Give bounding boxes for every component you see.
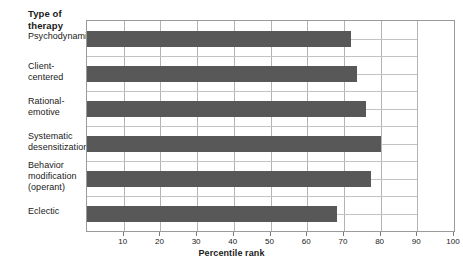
x-axis-tick-label: 80 — [375, 237, 384, 246]
bar — [87, 136, 381, 152]
x-axis-tick — [270, 232, 271, 236]
x-axis-title: Percentile rank — [0, 248, 463, 258]
bar — [87, 171, 371, 187]
x-axis-tick-label: 30 — [192, 237, 201, 246]
x-axis-tick — [416, 232, 417, 236]
category-label: Rational- emotive — [28, 96, 90, 118]
category-label: Behavior modification (operant) — [28, 160, 90, 193]
gridline-horizontal — [87, 161, 417, 162]
category-label: Client- centered — [28, 61, 90, 83]
gridline-vertical — [417, 21, 418, 231]
category-label: Psychodynamic — [28, 31, 90, 42]
gridline-horizontal — [87, 91, 417, 92]
bar — [87, 206, 337, 222]
x-axis-tick — [196, 232, 197, 236]
gridline-horizontal — [87, 126, 417, 127]
plot-area — [86, 20, 455, 232]
x-axis-tick-label: 40 — [228, 237, 237, 246]
x-axis-tick-label: 50 — [265, 237, 274, 246]
x-axis-tick-label: 10 — [118, 237, 127, 246]
x-axis-tick — [123, 232, 124, 236]
x-axis-tick — [380, 232, 381, 236]
plot-inner — [87, 21, 454, 231]
x-axis-tick — [343, 232, 344, 236]
x-axis-tick-label: 90 — [412, 237, 421, 246]
x-axis-tick — [306, 232, 307, 236]
x-axis-tick-label: 100 — [446, 237, 459, 246]
x-axis-tick — [233, 232, 234, 236]
bar — [87, 31, 351, 47]
x-axis-tick-label: 60 — [302, 237, 311, 246]
y-axis-title: Type of therapy — [28, 8, 63, 31]
x-axis-tick-label: 70 — [338, 237, 347, 246]
category-label: Systematic desensitization — [28, 131, 90, 153]
percentile-rank-bar-chart: Type of therapy PsychodynamicClient- cen… — [0, 0, 463, 272]
x-axis-tick-label: 20 — [155, 237, 164, 246]
x-axis-tick — [453, 232, 454, 236]
gridline-horizontal — [87, 56, 417, 57]
category-label: Eclectic — [28, 206, 90, 217]
x-axis-tick — [159, 232, 160, 236]
gridline-horizontal — [87, 196, 417, 197]
bar — [87, 101, 366, 117]
bar — [87, 66, 357, 82]
